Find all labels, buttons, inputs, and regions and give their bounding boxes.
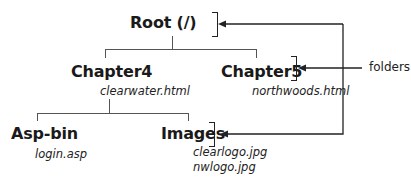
folders-annotation-arrows: [0, 0, 411, 184]
folders-label: folders: [369, 60, 410, 74]
